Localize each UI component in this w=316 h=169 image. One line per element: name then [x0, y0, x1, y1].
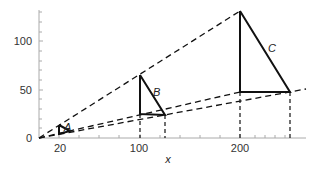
y-axis-ticks: [39, 12, 43, 128]
triangle-b-label: B: [153, 86, 160, 98]
lower-ray: [39, 89, 306, 138]
triangle-a-label: A: [63, 121, 71, 133]
y-tick-0: 0: [26, 132, 32, 144]
x-tick-200: 200: [231, 142, 249, 154]
x-tick-100: 100: [130, 142, 148, 154]
similar-triangles-diagram: 0 50 100 20 100 200 x A B C: [0, 0, 316, 169]
triangle-c-label: C: [268, 42, 276, 54]
x-tick-20: 20: [54, 142, 66, 154]
y-tick-100: 100: [14, 35, 32, 47]
x-axis-label: x: [164, 153, 171, 165]
y-tick-50: 50: [20, 84, 32, 96]
x-axis-ticks: [59, 134, 285, 138]
triangle-c: [240, 11, 290, 92]
